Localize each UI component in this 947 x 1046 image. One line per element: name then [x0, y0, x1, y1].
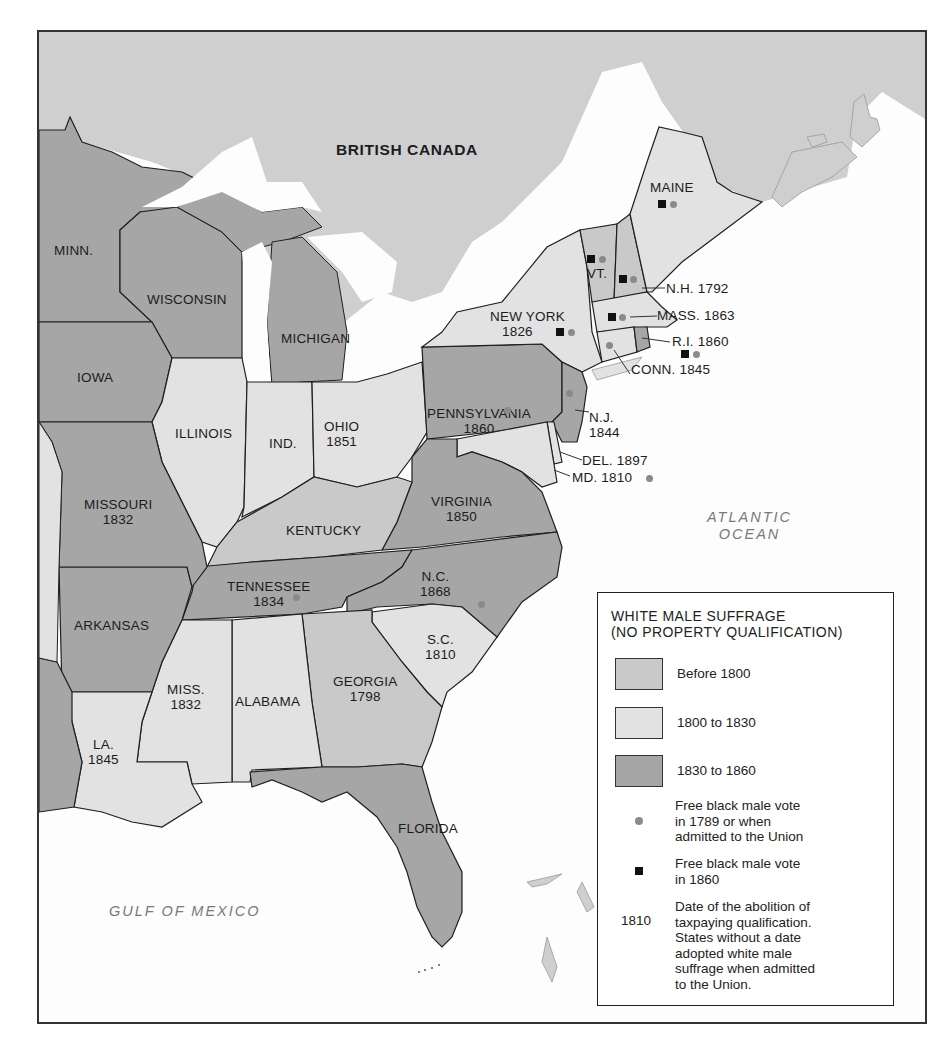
marker-square-mass — [608, 313, 616, 321]
legend-label-1800-1830: 1800 to 1830 — [677, 715, 756, 730]
label-nc-name: N.C. — [420, 569, 451, 584]
label-virginia: VIRGINIA 1850 — [431, 494, 492, 524]
label-alabama: ALABAMA — [235, 694, 300, 709]
legend-label-before-1800: Before 1800 — [677, 666, 751, 681]
bahamas — [527, 874, 594, 982]
label-missouri-name: MISSOURI — [84, 497, 152, 512]
marker-dot-nj — [566, 390, 573, 397]
legend-gray-dot-line1: Free black male vote — [675, 798, 803, 814]
label-pennsylvania: PENNSYLVANIA 1860 — [427, 406, 531, 436]
legend-year-line3: States without a date — [675, 930, 815, 946]
label-ri: R.I. 1860 — [672, 334, 729, 349]
label-minn: MINN. — [54, 243, 93, 258]
state-florida — [250, 764, 462, 947]
marker-square-maine — [658, 200, 666, 208]
legend-label-1830-1860: 1830 to 1860 — [677, 763, 756, 778]
label-pennsylvania-name: PENNSYLVANIA — [427, 406, 531, 421]
legend-year-desc: Date of the abolition of taxpaying quali… — [675, 899, 815, 992]
legend-gray-dot-desc: Free black male vote in 1789 or when adm… — [675, 798, 803, 845]
label-la-year: 1845 — [88, 752, 119, 767]
legend-year-line4: adopted white male — [675, 946, 815, 962]
legend-title-line2: (NO PROPERTY QUALIFICATION) — [611, 624, 843, 640]
label-missouri-year: 1832 — [84, 512, 152, 527]
legend-gray-dot-icon — [635, 817, 643, 825]
label-ocean-line2: OCEAN — [707, 526, 792, 543]
marker-dot-vt — [599, 256, 606, 263]
legend-year-example: 1810 — [621, 913, 651, 928]
marker-dot-maine — [670, 201, 677, 208]
label-georgia: GEORGIA 1798 — [333, 674, 397, 704]
legend-gray-dot-line2: in 1789 or when — [675, 814, 803, 830]
label-sc-year: 1810 — [425, 647, 456, 662]
florida-keys — [418, 964, 440, 973]
lake-michigan — [242, 242, 272, 387]
label-la-name: LA. — [88, 737, 119, 752]
legend-year-line1: Date of the abolition of — [675, 899, 815, 915]
label-gulf-of-mexico: GULF OF MEXICO — [109, 904, 261, 919]
label-ohio-name: OHIO — [324, 419, 359, 434]
legend-swatch-1830-1860 — [615, 755, 663, 787]
label-nj-year: 1844 — [589, 425, 620, 440]
legend-black-square-icon — [635, 867, 643, 875]
marker-dot-pennsylvania — [504, 407, 511, 414]
label-florida: FLORIDA — [398, 821, 458, 836]
label-new-york-name: NEW YORK — [490, 309, 565, 324]
label-georgia-year: 1798 — [333, 689, 397, 704]
legend-title: WHITE MALE SUFFRAGE (NO PROPERTY QUALIFI… — [611, 608, 843, 640]
marker-dot-conn — [606, 342, 613, 349]
legend-gray-dot-line3: admitted to the Union — [675, 829, 803, 845]
state-connecticut — [597, 327, 637, 362]
label-md: MD. 1810 — [572, 470, 632, 485]
label-ohio: OHIO 1851 — [324, 419, 359, 449]
label-arkansas: ARKANSAS — [74, 618, 149, 633]
legend-black-square-line1: Free black male vote — [675, 856, 800, 872]
label-nc-year: 1868 — [420, 584, 451, 599]
label-virginia-year: 1850 — [431, 509, 492, 524]
label-pennsylvania-year: 1860 — [427, 421, 531, 436]
marker-dot-tennessee — [293, 594, 300, 601]
legend-year-line2: taxpaying qualification. — [675, 915, 815, 931]
label-atlantic-line1: ATLANTIC — [707, 509, 792, 526]
label-ind: IND. — [269, 436, 297, 451]
label-new-york-year: 1826 — [490, 324, 565, 339]
label-nc: N.C. 1868 — [420, 569, 451, 599]
label-iowa: IOWA — [77, 370, 113, 385]
marker-square-vt — [587, 255, 595, 263]
label-tennessee-name: TENNESSEE — [227, 579, 311, 594]
legend-year-line5: suffrage when admitted — [675, 961, 815, 977]
label-nj-name: N.J. — [589, 410, 620, 425]
label-nj: N.J. 1844 — [589, 410, 620, 440]
label-michigan: MICHIGAN — [281, 331, 350, 346]
label-missouri: MISSOURI 1832 — [84, 497, 152, 527]
cape-breton — [850, 94, 880, 147]
label-la: LA. 1845 — [88, 737, 119, 767]
legend-year-line6: to the Union. — [675, 977, 815, 993]
label-nh: N.H. 1792 — [666, 281, 729, 296]
label-miss-year: 1832 — [167, 697, 205, 712]
label-virginia-name: VIRGINIA — [431, 494, 492, 509]
label-georgia-name: GEORGIA — [333, 674, 397, 689]
marker-dot-nc — [478, 601, 485, 608]
label-mass: MASS. 1863 — [657, 308, 735, 323]
marker-dot-nh — [630, 276, 637, 283]
label-del: DEL. 1897 — [582, 453, 648, 468]
marker-dot-mass — [619, 314, 626, 321]
marker-square-ri — [681, 350, 689, 358]
label-atlantic-ocean: ATLANTIC OCEAN — [707, 509, 792, 543]
marker-dot-ri — [693, 351, 700, 358]
legend-title-line1: WHITE MALE SUFFRAGE — [611, 608, 843, 624]
marker-square-nh — [619, 275, 627, 283]
label-sc-name: S.C. — [425, 632, 456, 647]
label-illinois: ILLINOIS — [175, 426, 232, 441]
label-conn: CONN. 1845 — [631, 362, 710, 377]
label-ohio-year: 1851 — [324, 434, 359, 449]
label-british-canada: BRITISH CANADA — [336, 142, 478, 157]
legend-black-square-line2: in 1860 — [675, 872, 800, 888]
marker-dot-ny — [568, 329, 575, 336]
legend: WHITE MALE SUFFRAGE (NO PROPERTY QUALIFI… — [597, 592, 894, 1006]
label-vt: VT. — [587, 266, 607, 281]
label-maine: MAINE — [650, 180, 694, 195]
legend-swatch-1800-1830 — [615, 707, 663, 739]
legend-swatch-before-1800 — [615, 658, 663, 690]
label-kentucky: KENTUCKY — [286, 523, 361, 538]
